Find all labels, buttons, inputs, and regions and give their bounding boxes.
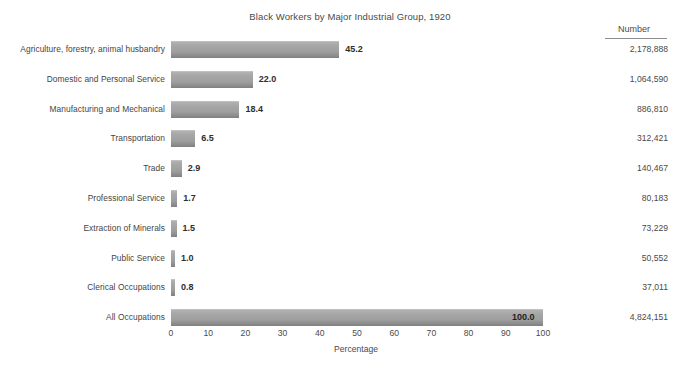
bar-value-label: 22.0	[259, 68, 277, 90]
bar	[171, 220, 177, 237]
bar	[171, 130, 195, 147]
x-tick-label: 50	[337, 328, 377, 338]
bar-row: Professional Service1.780,183	[0, 187, 677, 209]
bar-value-label: 100.0	[512, 306, 535, 328]
bar	[171, 309, 543, 326]
bar-value-label: 1.7	[183, 187, 196, 209]
bar-row: Extraction of Minerals1.573,229	[0, 217, 677, 239]
x-axis-title: Percentage	[170, 344, 542, 354]
plot-area: Agriculture, forestry, animal husbandry4…	[0, 0, 677, 367]
x-tick-label: 10	[188, 328, 228, 338]
number-value: 50,552	[588, 247, 668, 269]
bar-row: All Occupations100.04,824,151	[0, 306, 677, 328]
x-tick-label: 100	[523, 328, 563, 338]
category-label: Clerical Occupations	[0, 276, 165, 298]
bar-value-label: 45.2	[345, 38, 363, 60]
category-label: Extraction of Minerals	[0, 217, 165, 239]
number-value: 37,011	[588, 276, 668, 298]
bar	[171, 71, 253, 88]
x-tick-label: 40	[300, 328, 340, 338]
number-value: 312,421	[588, 127, 668, 149]
number-value: 73,229	[588, 217, 668, 239]
bar-value-label: 18.4	[245, 98, 263, 120]
bar	[171, 190, 177, 207]
bar-row: Trade2.9140,467	[0, 157, 677, 179]
bar-row: Manufacturing and Mechanical18.4886,810	[0, 98, 677, 120]
bar-chart-figure: Black Workers by Major Industrial Group,…	[0, 0, 677, 367]
category-label: Transportation	[0, 127, 165, 149]
bar-value-label: 6.5	[201, 127, 214, 149]
bar-row: Clerical Occupations0.837,011	[0, 276, 677, 298]
bar-row: Transportation6.5312,421	[0, 127, 677, 149]
caption-remnant	[8, 358, 338, 364]
bar	[171, 160, 182, 177]
x-tick-label: 0	[151, 328, 191, 338]
category-label: Public Service	[0, 247, 165, 269]
x-tick-label: 30	[263, 328, 303, 338]
bar-row: Domestic and Personal Service22.01,064,5…	[0, 68, 677, 90]
bar	[171, 250, 175, 267]
number-value: 1,064,590	[588, 68, 668, 90]
bar-row: Public Service1.050,552	[0, 247, 677, 269]
bar	[171, 279, 175, 296]
x-tick-label: 80	[449, 328, 489, 338]
x-tick-label: 60	[374, 328, 414, 338]
bar-value-label: 2.9	[188, 157, 201, 179]
number-value: 2,178,888	[588, 38, 668, 60]
category-label: Agriculture, forestry, animal husbandry	[0, 38, 165, 60]
number-value: 4,824,151	[588, 306, 668, 328]
number-value: 140,467	[588, 157, 668, 179]
bar-value-label: 0.8	[181, 276, 194, 298]
bar	[171, 101, 239, 118]
bar	[171, 41, 339, 58]
number-value: 886,810	[588, 98, 668, 120]
x-tick-label: 70	[411, 328, 451, 338]
x-tick-label: 20	[225, 328, 265, 338]
category-label: Manufacturing and Mechanical	[0, 98, 165, 120]
category-label: Professional Service	[0, 187, 165, 209]
bar-row: Agriculture, forestry, animal husbandry4…	[0, 38, 677, 60]
category-label: All Occupations	[0, 306, 165, 328]
category-label: Trade	[0, 157, 165, 179]
bar-value-label: 1.5	[183, 217, 196, 239]
number-value: 80,183	[588, 187, 668, 209]
x-tick-label: 90	[486, 328, 526, 338]
category-label: Domestic and Personal Service	[0, 68, 165, 90]
bar-value-label: 1.0	[181, 247, 194, 269]
